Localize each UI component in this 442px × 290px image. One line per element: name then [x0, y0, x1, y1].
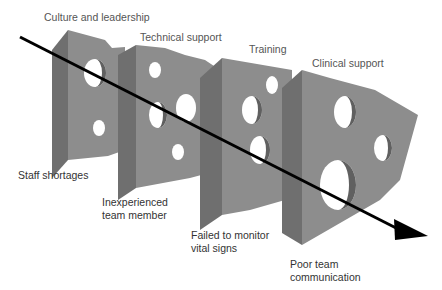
label-inexperienced: Inexperienced: [102, 196, 168, 209]
label-training: Training: [249, 43, 287, 56]
label-failed-to-monitor: Failed to monitor: [191, 229, 269, 242]
label-vital-signs: vital signs: [191, 242, 237, 255]
label-culture-and-leadership: Culture and leadership: [44, 11, 150, 24]
label-staff-shortages: Staff shortages: [18, 169, 88, 182]
label-team-member: team member: [102, 209, 167, 222]
swiss-cheese-diagram: Culture and leadership Technical support…: [0, 0, 442, 290]
label-poor-team: Poor team: [290, 258, 338, 271]
label-technical-support: Technical support: [140, 31, 222, 44]
slice-clinical-support: [282, 70, 418, 245]
slice-training: [200, 58, 292, 230]
label-communication: communication: [290, 271, 361, 284]
label-clinical-support: Clinical support: [312, 57, 384, 70]
slice-culture-and-leadership: [52, 30, 125, 178]
